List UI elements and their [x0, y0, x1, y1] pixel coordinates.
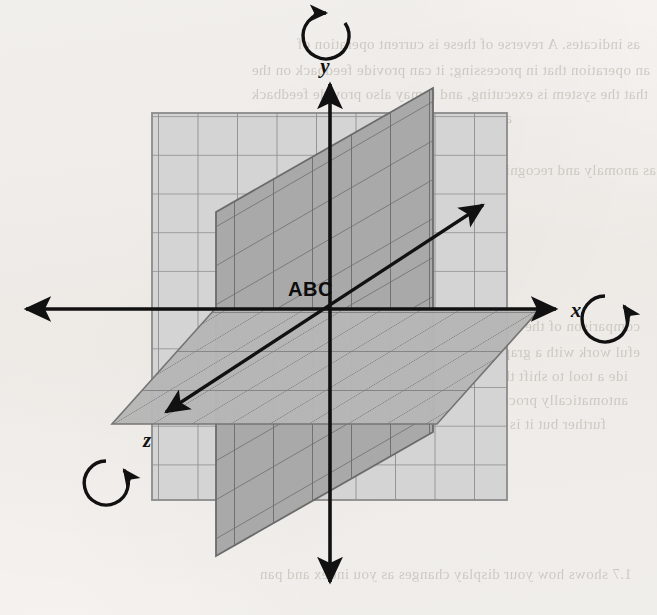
- x-axis-label: x: [570, 298, 582, 322]
- z-axis-label: z: [142, 428, 152, 452]
- scanned-page: as indicates. A reverse of these is curr…: [0, 0, 657, 615]
- coordinate-axes-figure: y x z ABC: [0, 0, 657, 615]
- plane-group: [112, 88, 540, 556]
- rotate-clockwise-icon-x: [582, 296, 628, 342]
- rotate-counterclockwise-icon: [303, 13, 349, 59]
- rotate-clockwise-icon-z: [84, 461, 128, 505]
- origin-label: ABC: [288, 278, 333, 300]
